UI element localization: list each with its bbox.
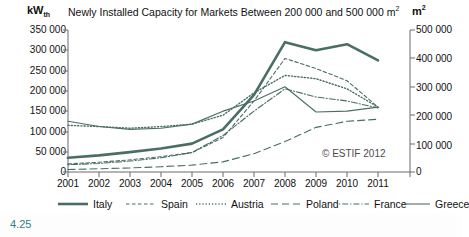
series-line-greece: [68, 87, 378, 130]
figure-caption-bar: [0, 215, 461, 237]
legend-swatch-spain: [126, 199, 156, 209]
legend-swatch-italy: [58, 199, 88, 209]
legend-item-austria[interactable]: Austria: [196, 193, 264, 215]
legend-label-italy: Italy: [93, 198, 112, 210]
series-line-poland: [68, 119, 378, 169]
legend-swatch-austria: [196, 199, 226, 209]
plot-lines-svg: [0, 0, 461, 216]
legend-swatch-france: [339, 199, 369, 209]
legend-swatch-greece: [404, 199, 430, 209]
legend-item-greece[interactable]: Greece: [404, 193, 469, 215]
series-line-austria: [68, 75, 378, 128]
legend-item-spain[interactable]: Spain: [126, 193, 188, 215]
legend-swatch-poland: [271, 199, 301, 209]
legend-label-austria: Austria: [231, 198, 264, 210]
series-line-italy: [68, 42, 378, 158]
chart-legend: Italy Spain Austria Poland France Greece: [0, 193, 461, 215]
data-series-group: [68, 42, 378, 169]
legend-label-france: France: [374, 198, 407, 210]
legend-item-poland[interactable]: Poland: [271, 193, 339, 215]
legend-label-greece: Greece: [435, 198, 469, 210]
legend-item-italy[interactable]: Italy: [58, 193, 112, 215]
chart-plot-area: kWth Newly Installed Capacity for Market…: [0, 0, 461, 216]
figure-number: 4.25: [10, 218, 31, 230]
legend-label-spain: Spain: [161, 198, 188, 210]
legend-label-poland: Poland: [306, 198, 339, 210]
legend-item-france[interactable]: France: [339, 193, 407, 215]
